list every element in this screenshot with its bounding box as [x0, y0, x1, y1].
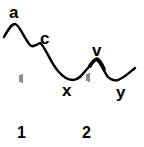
tick-mark-1: [20, 74, 22, 83]
label-a: a: [9, 4, 18, 21]
peak-v-thickening: [90, 59, 104, 69]
label-v: v: [92, 42, 101, 59]
tick-mark-2: [87, 73, 89, 82]
label-x: x: [62, 82, 71, 99]
region-label-2: 2: [82, 125, 91, 141]
region-label-1: 1: [17, 125, 26, 141]
label-c: c: [40, 30, 49, 47]
label-y: y: [116, 84, 125, 101]
wave-curve: [4, 24, 135, 80]
